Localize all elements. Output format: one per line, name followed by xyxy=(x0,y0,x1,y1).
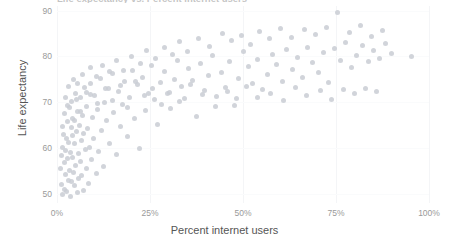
gridline-vertical xyxy=(150,6,151,203)
plot-area xyxy=(57,6,429,203)
data-point xyxy=(159,102,164,107)
data-point xyxy=(188,82,193,87)
data-point xyxy=(73,91,78,96)
data-point xyxy=(133,79,138,84)
data-point xyxy=(66,140,71,145)
data-point xyxy=(63,148,68,153)
data-point xyxy=(86,181,91,186)
data-point xyxy=(260,87,265,92)
data-point xyxy=(255,95,260,100)
data-point xyxy=(63,95,68,100)
gridline-vertical xyxy=(429,6,430,203)
data-point xyxy=(68,194,73,199)
gridline-horizontal xyxy=(57,56,429,57)
data-point xyxy=(198,61,203,66)
data-point xyxy=(338,58,343,63)
data-point xyxy=(250,81,255,86)
data-point xyxy=(200,92,205,97)
data-point xyxy=(214,94,219,99)
data-point xyxy=(82,85,87,90)
data-point xyxy=(118,83,123,88)
data-point xyxy=(236,76,241,81)
data-point xyxy=(162,69,167,74)
data-point xyxy=(257,29,262,34)
data-point xyxy=(79,173,84,178)
data-point xyxy=(137,146,142,151)
data-point xyxy=(162,45,167,50)
data-point xyxy=(99,128,104,133)
data-point xyxy=(138,61,143,66)
x-tick-label: 75% xyxy=(327,208,344,218)
data-point xyxy=(155,122,160,127)
data-point xyxy=(363,86,368,91)
data-point xyxy=(239,33,244,38)
data-point xyxy=(88,65,93,70)
data-point xyxy=(75,81,80,86)
data-point xyxy=(74,129,79,134)
data-point xyxy=(343,40,348,45)
data-point xyxy=(360,43,365,48)
y-tick-label: 60 xyxy=(28,144,52,153)
data-point xyxy=(207,44,212,49)
data-point xyxy=(265,72,270,77)
data-point xyxy=(66,84,71,89)
data-point xyxy=(76,151,81,156)
data-point xyxy=(270,52,275,57)
data-point xyxy=(310,60,315,65)
data-point xyxy=(220,31,225,36)
data-point xyxy=(60,124,65,129)
data-point xyxy=(347,30,352,35)
data-point xyxy=(116,89,121,94)
data-point xyxy=(77,123,82,128)
data-point xyxy=(167,90,172,95)
data-point xyxy=(70,116,75,121)
data-point xyxy=(118,124,123,129)
data-point xyxy=(234,96,239,101)
data-point xyxy=(177,99,182,104)
data-point xyxy=(335,10,340,15)
gridline-vertical xyxy=(336,6,337,203)
data-point xyxy=(73,163,78,168)
scatter-chart: Life expectancy vs. Percent internet use… xyxy=(0,0,449,241)
data-point xyxy=(122,79,127,84)
data-point xyxy=(172,77,177,82)
data-point xyxy=(143,108,148,113)
data-point xyxy=(329,97,334,102)
data-point xyxy=(170,52,175,57)
data-point xyxy=(81,131,86,136)
data-point xyxy=(62,160,67,165)
data-point xyxy=(289,35,294,40)
x-tick-label: 50% xyxy=(234,208,251,218)
data-point xyxy=(71,170,76,175)
data-point xyxy=(316,70,321,75)
data-point xyxy=(318,88,323,93)
data-point xyxy=(140,75,145,80)
gridline-horizontal xyxy=(57,194,429,195)
data-point xyxy=(369,34,374,39)
data-point xyxy=(121,68,126,73)
data-point xyxy=(196,36,201,41)
data-point xyxy=(100,63,105,68)
data-point xyxy=(144,48,149,53)
data-point xyxy=(150,86,155,91)
data-point xyxy=(87,145,92,150)
data-point xyxy=(95,101,100,106)
data-point xyxy=(246,64,251,69)
x-tick-label: 25% xyxy=(141,208,158,218)
data-point xyxy=(232,103,237,108)
data-point xyxy=(158,80,163,85)
data-point xyxy=(248,42,253,47)
data-point xyxy=(94,171,99,176)
data-point xyxy=(84,104,89,109)
data-point xyxy=(74,97,79,102)
data-point xyxy=(85,126,90,131)
data-point xyxy=(70,155,75,160)
data-point xyxy=(352,91,357,96)
data-point xyxy=(358,23,363,28)
data-point xyxy=(127,95,132,100)
x-axis-label: Percent internet users xyxy=(0,224,449,236)
data-point xyxy=(332,46,337,51)
data-point xyxy=(79,138,84,143)
data-point xyxy=(129,54,134,59)
data-point xyxy=(380,28,385,33)
